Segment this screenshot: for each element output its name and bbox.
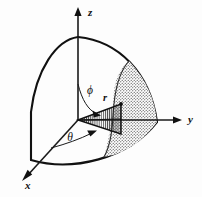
theta-arc-arrowhead — [87, 131, 97, 137]
radius-label: r — [103, 92, 108, 103]
figure-root: z y x ϕ θ r — [0, 0, 202, 197]
phi-angle-label: ϕ — [87, 84, 93, 97]
z-axis-arrowhead — [74, 7, 81, 16]
z-axis-label: z — [87, 6, 93, 18]
x-axis-label: x — [24, 179, 31, 191]
theta-angle-label: θ — [67, 131, 73, 143]
spherical-coordinates-diagram: z y x ϕ θ r — [0, 0, 202, 197]
y-axis-arrowhead — [173, 116, 182, 123]
wedge-corner-dot — [119, 102, 123, 106]
y-axis-label: y — [186, 113, 193, 125]
theta-angle-arc — [51, 131, 97, 149]
solid-angle-wedge — [78, 102, 123, 134]
